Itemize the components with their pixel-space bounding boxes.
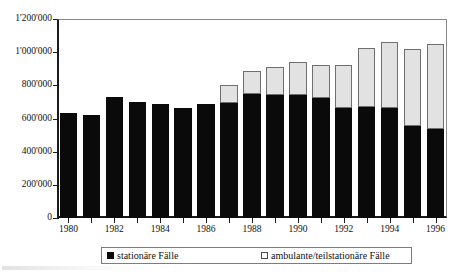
bar-chart: 0200'000400'000600'000800'0001'000'0001'… xyxy=(0,0,459,272)
bar-segment-ambulante-1992 xyxy=(335,65,352,108)
x-axis-tick-mark xyxy=(367,218,368,223)
y-axis-tick-label: 800'000 xyxy=(0,79,52,89)
y-axis-tick-label: 400'000 xyxy=(0,146,52,156)
bar-segment-ambulante-1989 xyxy=(266,67,283,95)
bar-segment-stationare-1990 xyxy=(289,95,306,218)
bar-segment-ambulante-1988 xyxy=(243,71,260,94)
x-axis-tick-mark xyxy=(252,218,253,223)
bar-1990 xyxy=(289,19,306,218)
bar-segment-stationare-1995 xyxy=(404,126,421,218)
x-axis-tick-label: 1984 xyxy=(151,224,170,234)
x-axis-tick-mark xyxy=(229,218,230,223)
bar-1986 xyxy=(197,19,214,218)
x-axis-tick-mark xyxy=(91,218,92,223)
bar-1981 xyxy=(83,19,100,218)
legend-swatch-icon-ambulante xyxy=(261,252,268,259)
bar-segment-ambulante-1991 xyxy=(312,65,329,97)
x-axis-tick-mark xyxy=(298,218,299,223)
bar-segment-ambulante-1993 xyxy=(358,48,375,107)
legend-swatch-icon-stationare xyxy=(107,252,114,259)
bar-1995 xyxy=(404,19,421,218)
x-axis-tick-label: 1982 xyxy=(105,224,124,234)
bar-segment-ambulante-1995 xyxy=(404,49,421,126)
bar-segment-stationare-1987 xyxy=(220,103,237,218)
x-axis-tick-mark xyxy=(275,218,276,223)
x-axis-tick-mark xyxy=(183,218,184,223)
x-axis-tick-label: 1988 xyxy=(243,224,262,234)
bar-segment-stationare-1989 xyxy=(266,95,283,218)
bar-1985 xyxy=(174,19,191,218)
x-axis-tick-mark xyxy=(436,218,437,223)
y-axis-tick-label: 200'000 xyxy=(0,179,52,189)
x-axis-tick-label: 1996 xyxy=(426,224,445,234)
bar-segment-ambulante-1987 xyxy=(220,85,237,102)
bar-segment-stationare-1986 xyxy=(197,104,214,218)
bar-segment-stationare-1981 xyxy=(83,115,100,218)
bar-segment-ambulante-1996 xyxy=(427,44,444,129)
bar-1993 xyxy=(358,19,375,218)
y-axis-tick-mark xyxy=(53,218,59,219)
bar-segment-stationare-1994 xyxy=(381,108,398,218)
x-axis-tick-mark xyxy=(206,218,207,223)
bar-segment-ambulante-1990 xyxy=(289,62,306,95)
bar-segment-stationare-1988 xyxy=(243,94,260,218)
bar-segment-stationare-1992 xyxy=(335,108,352,218)
bar-segment-stationare-1993 xyxy=(358,107,375,218)
x-axis-tick-mark xyxy=(137,218,138,223)
bar-segment-stationare-1991 xyxy=(312,98,329,218)
bar-1988 xyxy=(243,19,260,218)
x-axis-tick-mark xyxy=(114,218,115,223)
bar-1994 xyxy=(381,19,398,218)
page-edge-artifact xyxy=(2,266,152,270)
bar-1996 xyxy=(427,19,444,218)
x-axis-tick-mark xyxy=(344,218,345,223)
y-axis-tick-label: 1'200'000 xyxy=(0,13,52,23)
bar-1984 xyxy=(152,19,169,218)
x-axis-tick-label: 1992 xyxy=(334,224,353,234)
bar-segment-ambulante-1994 xyxy=(381,42,398,108)
bar-segment-stationare-1980 xyxy=(60,113,77,218)
bar-segment-stationare-1983 xyxy=(129,102,146,218)
x-axis-tick-label: 1980 xyxy=(59,224,78,234)
bar-segment-stationare-1985 xyxy=(174,108,191,218)
bar-1983 xyxy=(129,19,146,218)
bar-1989 xyxy=(266,19,283,218)
x-axis-tick-mark xyxy=(413,218,414,223)
x-axis-tick-label: 1994 xyxy=(380,224,399,234)
bar-1991 xyxy=(312,19,329,218)
x-axis-tick-mark xyxy=(390,218,391,223)
legend-item-ambulante-teilstationare-falle: ambulante/teilstationäre Fälle xyxy=(261,250,390,261)
bar-1987 xyxy=(220,19,237,218)
x-axis-tick-mark xyxy=(321,218,322,223)
legend-item-stationare-falle: stationäre Fälle xyxy=(107,250,178,261)
bar-segment-stationare-1982 xyxy=(106,97,123,218)
legend: stationäre Fälle ambulante/teilstationär… xyxy=(101,247,412,264)
bars-layer xyxy=(57,19,447,218)
legend-label-stationare: stationäre Fälle xyxy=(117,250,178,261)
y-axis-tick-label: 0 xyxy=(0,212,52,222)
bar-segment-stationare-1996 xyxy=(427,129,444,218)
y-axis-tick-label: 1'000'000 xyxy=(0,46,52,56)
bar-1982 xyxy=(106,19,123,218)
x-axis-tick-label: 1986 xyxy=(197,224,216,234)
bar-1992 xyxy=(335,19,352,218)
y-axis-tick-label: 600'000 xyxy=(0,113,52,123)
legend-label-ambulante: ambulante/teilstationäre Fälle xyxy=(271,250,390,261)
bar-segment-stationare-1984 xyxy=(152,104,169,218)
bar-1980 xyxy=(60,19,77,218)
x-axis-tick-label: 1990 xyxy=(288,224,307,234)
x-axis-tick-mark xyxy=(160,218,161,223)
x-axis-tick-mark xyxy=(68,218,69,223)
